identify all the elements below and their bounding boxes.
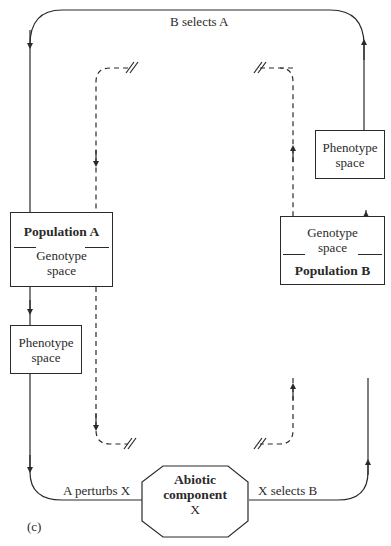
phenotype-a-line2: space <box>11 350 81 365</box>
edge-x-selects-b <box>249 378 368 500</box>
divider <box>14 247 36 248</box>
genotype-space-a-line1: Genotype <box>11 248 112 263</box>
edge-b-selects-a <box>30 10 364 212</box>
dashed-link-left <box>96 68 128 212</box>
edge-label-x-selects-b: X selects B <box>258 484 317 497</box>
abiotic-component-label: Abiotic component X <box>142 472 248 517</box>
divider <box>358 254 382 255</box>
phenotype-b-line2: space <box>316 155 384 170</box>
edge-a-perturbs-x <box>30 374 142 500</box>
genotype-space-b-line1: Genotype <box>281 225 384 240</box>
abiotic-line2: component <box>142 487 248 502</box>
population-a-title: Population A <box>11 224 112 240</box>
genotype-space-b-line2: space <box>281 240 384 255</box>
population-b-box: Genotype space Population B <box>280 216 385 285</box>
divider <box>85 247 109 248</box>
phenotype-b-box: Phenotype space <box>315 130 385 179</box>
edge-label-a-perturbs-x: A perturbs X <box>63 484 130 497</box>
phenotype-a-box: Phenotype space <box>10 325 82 374</box>
edge-label-b-selects-a: B selects A <box>170 15 229 28</box>
divider <box>283 254 305 255</box>
population-b-title: Population B <box>281 263 384 279</box>
figure-label: (c) <box>27 520 41 533</box>
abiotic-line3: X <box>142 502 248 517</box>
phenotype-b-line1: Phenotype <box>316 140 384 155</box>
population-a-box: Population A Genotype space <box>10 212 113 287</box>
phenotype-a-line1: Phenotype <box>11 335 81 350</box>
abiotic-line1: Abiotic <box>142 472 248 487</box>
genotype-space-a-line2: space <box>11 263 112 278</box>
